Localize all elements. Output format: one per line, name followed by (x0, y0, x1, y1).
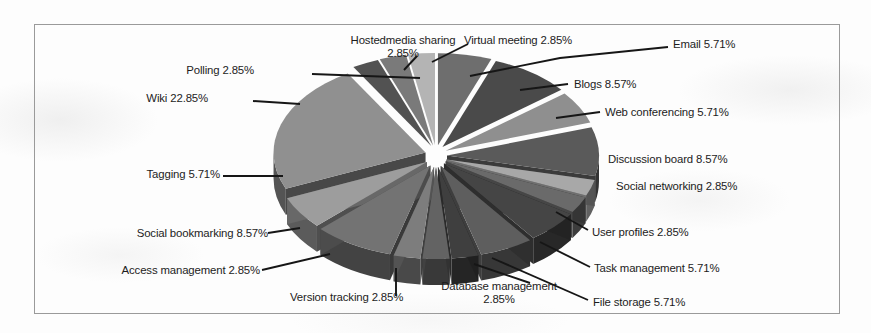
label-hostedmedia-sharing: Hostedmedia sharing 2.85% (338, 34, 468, 61)
label-task-management-text: Task management 5.71% (594, 262, 719, 274)
label-social-bookmarking: Social bookmarking 8.57% (82, 227, 268, 240)
label-discussion-board: Discussion board 8.57% (608, 153, 728, 166)
label-task-management: Task management 5.71% (594, 262, 719, 275)
label-database-management-text: Database management 2.85% (441, 280, 557, 305)
label-social-networking-text: Social networking 2.85% (616, 180, 737, 192)
label-version-tracking: Version tracking 2.85% (290, 291, 403, 304)
leader-line (253, 101, 300, 104)
label-social-bookmarking-text: Social bookmarking 8.57% (137, 227, 268, 239)
label-web-conferencing-text: Web conferencing 5.71% (605, 106, 729, 118)
label-discussion-board-text: Discussion board 8.57% (608, 153, 728, 165)
label-access-management-text: Access management 2.85% (122, 264, 260, 276)
label-version-tracking-text: Version tracking 2.85% (290, 291, 403, 303)
pie-slice-tops (274, 53, 599, 259)
figure-page: Hostedmedia sharing 2.85% Virtual meetin… (0, 0, 871, 333)
label-virtual-meeting: Virtual meeting 2.85% (464, 34, 572, 47)
label-email: Email 5.71% (673, 38, 735, 51)
label-wiki-text: Wiki 22.85% (146, 92, 208, 104)
label-user-profiles: User profiles 2.85% (592, 226, 689, 239)
label-wiki: Wiki 22.85% (100, 92, 208, 105)
label-polling-text: Polling 2.85% (186, 64, 254, 76)
label-file-storage: File storage 5.71% (593, 296, 685, 309)
label-tagging-text: Tagging 5.71% (147, 168, 220, 180)
label-polling: Polling 2.85% (142, 64, 254, 77)
label-database-management: Database management 2.85% (434, 280, 564, 307)
label-user-profiles-text: User profiles 2.85% (592, 226, 689, 238)
label-email-text: Email 5.71% (673, 38, 735, 50)
leader-line (262, 254, 330, 270)
label-file-storage-text: File storage 5.71% (593, 296, 685, 308)
label-blogs-text: Blogs 8.57% (574, 78, 636, 90)
label-web-conferencing: Web conferencing 5.71% (605, 106, 729, 119)
label-social-networking: Social networking 2.85% (616, 180, 737, 193)
label-hostedmedia-sharing-text: Hostedmedia sharing 2.85% (351, 34, 456, 59)
label-access-management: Access management 2.85% (68, 264, 260, 277)
label-virtual-meeting-text: Virtual meeting 2.85% (464, 34, 572, 46)
label-tagging: Tagging 5.71% (108, 168, 220, 181)
label-blogs: Blogs 8.57% (574, 78, 636, 91)
